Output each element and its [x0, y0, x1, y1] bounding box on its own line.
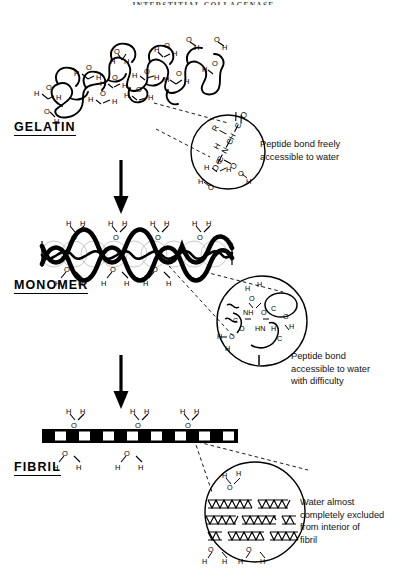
svg-text:O: O — [113, 233, 119, 242]
svg-text:O: O — [135, 421, 141, 430]
svg-text:H: H — [238, 557, 243, 566]
svg-text:O: O — [208, 545, 214, 554]
svg-text:O: O — [186, 35, 192, 44]
svg-text:O: O — [144, 67, 150, 76]
fibril-caption: Water almost completely excluded from in… — [300, 496, 404, 546]
svg-text:H: H — [260, 557, 265, 566]
svg-text:O: O — [229, 332, 235, 341]
svg-text:H: H — [164, 75, 169, 84]
svg-text:H: H — [124, 57, 129, 66]
svg-text:O: O — [136, 85, 142, 94]
svg-text:H: H — [115, 463, 120, 472]
svg-text:R: R — [210, 123, 221, 133]
svg-text:H: H — [56, 93, 61, 102]
svg-text:O: O — [185, 421, 191, 430]
svg-text:C: C — [271, 304, 276, 313]
svg-text:H: H — [76, 463, 81, 472]
svg-text:H: H — [245, 284, 250, 293]
svg-text:O: O — [155, 233, 161, 242]
svg-text:O: O — [164, 41, 170, 50]
svg-text:H: H — [130, 407, 135, 416]
gelatin-inset-circle: O C N CH C O R H O HOH HO OH — [190, 114, 270, 194]
svg-text:C: C — [277, 334, 282, 343]
gelatin-caption: Peptide bond freely accessible to water — [260, 138, 395, 163]
svg-text:O: O — [283, 312, 289, 321]
svg-text:HN: HN — [255, 324, 265, 333]
svg-text:O: O — [214, 35, 220, 44]
svg-text:H: H — [124, 91, 129, 100]
svg-text:H: H — [222, 43, 227, 52]
svg-text:H: H — [194, 407, 199, 416]
svg-text:H: H — [194, 43, 199, 52]
svg-text:O: O — [176, 69, 182, 78]
svg-text:H: H — [202, 65, 207, 74]
svg-text:O: O — [71, 233, 77, 242]
svg-text:H: H — [110, 57, 115, 66]
svg-text:H: H — [184, 77, 189, 86]
svg-text:H: H — [100, 79, 105, 88]
svg-text:H: H — [154, 45, 159, 54]
svg-text:H: H — [80, 219, 85, 228]
svg-text:O: O — [238, 169, 244, 178]
svg-text:H: H — [154, 73, 159, 82]
svg-text:O: O — [152, 265, 158, 274]
svg-text:O: O — [216, 157, 222, 166]
svg-text:H: H — [108, 219, 113, 228]
svg-text:O: O — [112, 73, 118, 82]
svg-text:O: O — [227, 483, 233, 492]
svg-text:O: O — [71, 421, 77, 430]
svg-text:O: O — [208, 183, 214, 192]
svg-text:H: H — [202, 557, 207, 566]
svg-text:O: O — [110, 265, 116, 274]
svg-text:H: H — [180, 407, 185, 416]
svg-text:H: H — [74, 69, 79, 78]
svg-text:H: H — [206, 219, 211, 228]
svg-text:H: H — [101, 279, 106, 288]
svg-text:H: H — [88, 95, 93, 104]
svg-text:O: O — [46, 83, 52, 92]
svg-text:H: H — [271, 324, 276, 333]
svg-text:O: O — [114, 47, 120, 56]
svg-text:O: O — [246, 545, 252, 554]
svg-text:H: H — [122, 81, 127, 90]
svg-text:H: H — [198, 177, 203, 186]
svg-text:H: H — [164, 219, 169, 228]
svg-text:O: O — [261, 308, 267, 317]
svg-text:O: O — [44, 107, 50, 116]
svg-text:H: H — [138, 463, 143, 472]
svg-text:O: O — [249, 294, 255, 303]
svg-text:O: O — [62, 449, 68, 458]
svg-text:H: H — [257, 280, 262, 289]
svg-text:H: H — [150, 219, 155, 228]
running-head: INTERSTITIAL COLLAGENASE — [0, 1, 407, 10]
svg-text:H: H — [246, 177, 251, 186]
svg-text:O: O — [64, 265, 70, 274]
svg-text:H: H — [226, 165, 231, 174]
svg-text:H: H — [204, 163, 209, 172]
monomer-caption: Peptide bond accessible to water with di… — [291, 350, 403, 388]
svg-text:O: O — [124, 449, 130, 458]
svg-text:H: H — [122, 219, 127, 228]
svg-text:H: H — [289, 322, 294, 331]
svg-text:O: O — [197, 233, 203, 242]
svg-text:NH: NH — [243, 308, 253, 317]
svg-text:O: O — [86, 63, 92, 72]
svg-text:H: H — [222, 471, 227, 480]
svg-text:H: H — [192, 219, 197, 228]
svg-text:C: C — [233, 316, 238, 325]
svg-text:C: C — [233, 121, 244, 131]
svg-text:H: H — [124, 279, 129, 288]
svg-text:H: H — [172, 49, 177, 58]
svg-text:O: O — [100, 89, 106, 98]
arrow-gelatin-to-monomer — [110, 160, 134, 216]
svg-text:H: H — [236, 469, 241, 478]
stage-label-fibril: FIBRIL — [14, 461, 61, 476]
svg-text:O: O — [239, 324, 245, 333]
svg-text:H: H — [80, 407, 85, 416]
figure-canvas: INTERSTITIAL COLLAGENASE — [0, 0, 407, 569]
svg-text:H: H — [143, 279, 148, 288]
svg-text:H: H — [225, 344, 230, 353]
svg-text:H: H — [217, 332, 222, 341]
svg-text:H: H — [34, 89, 39, 98]
fibril-inset-circle: HHO OHH OHH — [202, 462, 308, 568]
